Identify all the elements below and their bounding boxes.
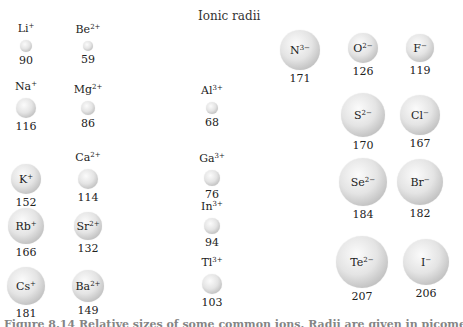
- ion-charge: −: [424, 176, 430, 184]
- figure-caption: Figure 8.14 Relative sizes of some commo…: [4, 318, 463, 327]
- element-symbol: Ca: [75, 151, 90, 164]
- ion-charge: 3+: [213, 200, 223, 208]
- ion-radius-value-al: 68: [187, 117, 237, 128]
- ion-radius-value-be: 59: [63, 54, 113, 65]
- element-symbol: Cs: [16, 280, 30, 293]
- element-symbol: K: [19, 173, 27, 186]
- ion-radius-value-in: 94: [187, 237, 237, 248]
- element-symbol: S: [354, 109, 362, 122]
- ion-sphere-be: [83, 41, 93, 51]
- ion-sphere-se: Se2−: [339, 158, 387, 206]
- title-text: Ionic radii: [198, 9, 260, 23]
- ion-sphere-k: K+: [11, 164, 41, 194]
- ion-symbol-sr: Sr2+: [76, 220, 99, 233]
- ion-sphere-na: [16, 98, 36, 118]
- ion-charge: 3+: [212, 256, 222, 264]
- element-symbol: Al: [201, 84, 212, 97]
- ion-sphere-al: [206, 102, 218, 114]
- ion-charge: +: [28, 22, 34, 30]
- ion-sphere-br: Br−: [397, 159, 443, 205]
- ion-charge: +: [30, 280, 36, 288]
- ion-radius-value-k: 152: [1, 197, 51, 208]
- ion-charge: +: [31, 80, 37, 88]
- ion-sphere-cs: Cs+: [7, 267, 45, 305]
- element-symbol: Ga: [199, 152, 214, 165]
- ion-symbol-cl: Cl−: [411, 109, 429, 122]
- element-symbol: Se: [351, 176, 365, 189]
- ion-symbol-tl: Tl3+: [201, 256, 222, 269]
- ion-sphere-o: O2−: [348, 33, 378, 63]
- ion-charge: 2−: [362, 109, 372, 117]
- element-symbol: Be: [76, 23, 91, 36]
- element-symbol: Tl: [201, 256, 212, 269]
- ion-sphere-li: [20, 40, 32, 52]
- ion-charge: −: [425, 256, 431, 264]
- ion-sphere-s: S2−: [341, 93, 385, 137]
- ion-sphere-i: I−: [403, 239, 449, 285]
- ion-sphere-rb: Rb+: [8, 208, 44, 244]
- ion-symbol-se: Se2−: [351, 176, 375, 189]
- ion-radius-value-br: 182: [395, 208, 445, 219]
- ion-radius-value-na: 116: [1, 121, 51, 132]
- ion-sphere-n: N3−: [280, 30, 320, 70]
- ion-radius-value-tl: 103: [187, 297, 237, 308]
- ion-symbol-n: N3−: [290, 44, 310, 57]
- ion-sphere-tl: [202, 274, 222, 294]
- ion-radius-value-li: 90: [1, 55, 51, 66]
- ion-symbol-o: O2−: [353, 42, 372, 55]
- ion-symbol-in: In3+: [201, 200, 223, 213]
- ion-radius-value-se: 184: [338, 209, 388, 220]
- ion-charge: 3+: [213, 84, 223, 92]
- ion-radius-value-o: 126: [338, 66, 388, 77]
- ion-radius-value-cl: 167: [395, 138, 445, 149]
- ion-radius-value-n: 171: [275, 73, 325, 84]
- ion-charge: 2−: [362, 42, 372, 50]
- ion-charge: +: [27, 173, 33, 181]
- ion-charge: 2+: [89, 220, 99, 228]
- element-symbol: Mg: [74, 83, 92, 96]
- ion-symbol-te: Te2−: [350, 256, 373, 269]
- ion-radius-value-ca: 114: [63, 192, 113, 203]
- ion-charge: +: [31, 220, 37, 228]
- ion-radius-value-f: 119: [395, 65, 445, 76]
- ion-charge: 2+: [90, 151, 100, 159]
- ion-charge: 3+: [215, 152, 225, 160]
- ion-symbol-rb: Rb+: [15, 220, 36, 233]
- ion-charge: −: [421, 42, 427, 50]
- ion-sphere-ga: [204, 170, 220, 186]
- ion-charge: 2+: [90, 280, 100, 288]
- ion-symbol-mg: Mg2+: [74, 83, 103, 96]
- ion-sphere-f: F−: [406, 34, 434, 62]
- ion-charge: 2−: [365, 176, 375, 184]
- element-symbol: Na: [15, 80, 31, 93]
- ion-sphere-cl: Cl−: [400, 95, 440, 135]
- ion-radius-value-ga: 76: [187, 189, 237, 200]
- ion-symbol-ba: Ba2+: [76, 280, 101, 293]
- element-symbol: N: [290, 44, 300, 57]
- ion-sphere-ca: [78, 169, 98, 189]
- ion-radius-value-ba: 149: [63, 305, 113, 316]
- ion-symbol-li: Li+: [18, 22, 35, 35]
- element-symbol: O: [353, 42, 362, 55]
- ion-symbol-ca: Ca2+: [75, 151, 100, 164]
- ion-symbol-cs: Cs+: [16, 280, 36, 293]
- ion-charge: 3−: [300, 44, 310, 52]
- ion-sphere-mg: [81, 101, 95, 115]
- ion-symbol-al: Al3+: [201, 84, 223, 97]
- ion-sphere-te: Te2−: [336, 236, 388, 288]
- element-symbol: Br: [410, 176, 423, 189]
- element-symbol: Te: [350, 256, 363, 269]
- element-symbol: Li: [18, 22, 29, 35]
- ion-charge: 2+: [92, 83, 102, 91]
- element-symbol: Cl: [411, 109, 423, 122]
- ion-charge: 2+: [90, 23, 100, 31]
- ion-radius-value-te: 207: [337, 291, 387, 302]
- ion-symbol-br: Br−: [410, 176, 429, 189]
- ion-radius-value-rb: 166: [1, 247, 51, 258]
- ion-symbol-ga: Ga3+: [199, 152, 225, 165]
- ion-sphere-sr: Sr2+: [74, 212, 102, 240]
- ion-symbol-be: Be2+: [76, 23, 101, 36]
- ion-radius-value-i: 206: [401, 288, 451, 299]
- ion-symbol-k: K+: [19, 173, 33, 186]
- element-symbol: Rb: [15, 220, 30, 233]
